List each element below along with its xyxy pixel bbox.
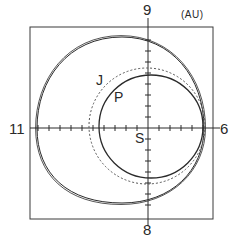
sun-label: S	[135, 131, 144, 145]
outer-orbit	[36, 36, 206, 205]
axis-label-top: 9	[143, 2, 151, 17]
unit-label: (AU)	[181, 10, 204, 20]
axis-label-right: 6	[220, 121, 228, 136]
planet-label: P	[114, 90, 123, 104]
orbit-diagram	[0, 0, 236, 242]
axis-label-left: 11	[9, 121, 25, 136]
plot-frame	[30, 27, 213, 219]
jupiter-orbit	[89, 68, 205, 184]
axis-label-bottom: 8	[143, 222, 151, 237]
jupiter-label: J	[96, 73, 103, 87]
